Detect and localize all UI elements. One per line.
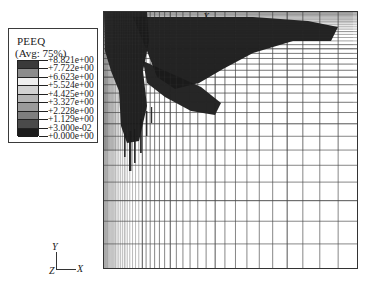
triad-y-axis-line (56, 252, 57, 270)
contour-legend: PEEQ (Avg: 75%) +8.821e+00+7.722e+00+6.6… (8, 28, 98, 143)
legend-tick (39, 94, 48, 95)
coordinate-triad: Y X Z (46, 242, 92, 280)
legend-swatch (18, 112, 38, 120)
legend-value-label: +0.000e+00 (48, 131, 94, 141)
legend-swatch (18, 78, 38, 86)
legend-swatch (18, 95, 38, 103)
legend-swatch (18, 61, 38, 69)
legend-tick (39, 119, 48, 120)
legend-tick (39, 85, 48, 86)
legend-tick (39, 128, 48, 129)
legend-swatch (18, 129, 38, 137)
legend-tick (39, 77, 48, 78)
mesh-svg (103, 11, 358, 269)
legend-swatch (18, 86, 38, 94)
triad-x-axis-line (56, 269, 76, 270)
triad-x-label: X (77, 264, 83, 274)
legend-tick (39, 60, 48, 61)
legend-swatch (18, 120, 38, 128)
legend-tick (39, 111, 48, 112)
legend-title: PEEQ (17, 35, 45, 47)
legend-tick (39, 136, 48, 137)
strain-band-whisker (129, 131, 131, 171)
legend-swatch (18, 103, 38, 111)
legend-swatch (18, 69, 38, 77)
legend-color-ramp (17, 60, 39, 136)
legend-tick (39, 102, 48, 103)
legend-tick (39, 68, 48, 69)
triad-y-label: Y (52, 242, 58, 252)
strain-band-whisker (151, 107, 152, 123)
mesh-corner-axis-label: X (203, 12, 209, 22)
mesh-contour-plot: X (103, 11, 358, 269)
figure-canvas: PEEQ (Avg: 75%) +8.821e+00+7.722e+00+6.6… (0, 0, 370, 287)
triad-z-label: Z (49, 266, 55, 276)
strain-band-whisker (140, 119, 142, 153)
